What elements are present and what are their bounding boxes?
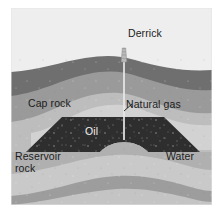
reservoir-cross-section-figure: Derrick Cap rock Natural gas Oil Reservo… (0, 0, 224, 220)
diagram-body (11, 8, 212, 205)
rock-texture-overlay (11, 58, 212, 205)
cross-section-svg (0, 0, 224, 220)
derrick-tower-icon (121, 48, 127, 62)
